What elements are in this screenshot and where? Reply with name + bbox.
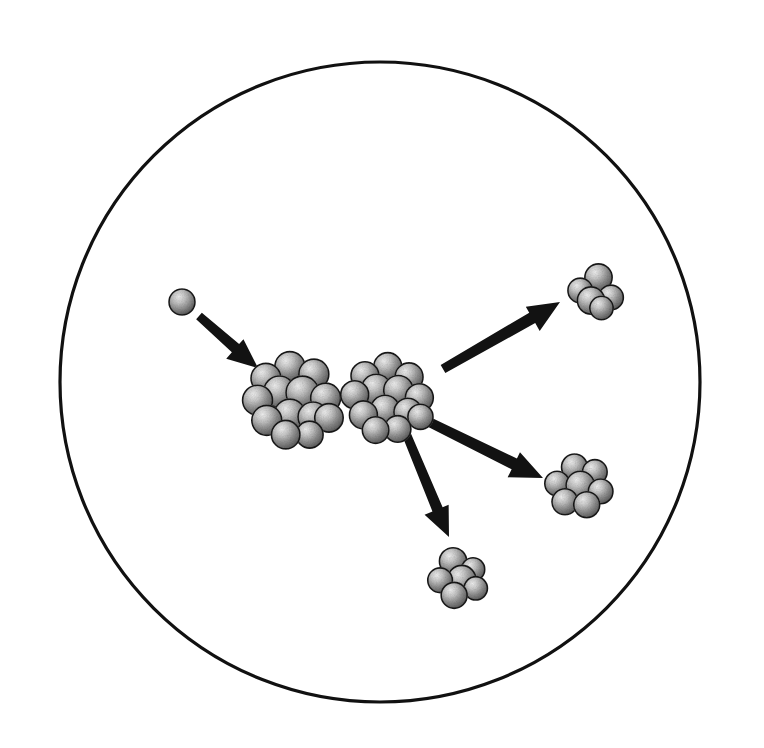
fragment-bottom: [428, 548, 488, 609]
nucleon-sphere: [169, 289, 195, 315]
arrow-fragment-upper-right: [441, 302, 560, 373]
nucleon-sphere: [574, 492, 600, 518]
compound-nucleus: [341, 353, 434, 444]
fission-diagram-figure: Nuclear fission of a heavy nucleus induc…: [0, 0, 764, 748]
target-nucleus: [243, 352, 344, 449]
fragment-lower-right: [545, 454, 613, 518]
arrow-fragment-lower-right: [419, 414, 543, 478]
nucleon-sphere: [408, 404, 433, 429]
nucleon-sphere: [271, 420, 300, 449]
fission-diagram-canvas: [0, 0, 764, 748]
nucleon-sphere: [441, 582, 467, 608]
fragment-upper-right: [568, 264, 623, 320]
arrow-incoming-neutron: [196, 313, 258, 368]
nucleon-sphere: [590, 296, 613, 319]
incident-neutron: [169, 289, 195, 315]
arrow-fragment-bottom: [399, 424, 449, 537]
nucleon-sphere: [362, 417, 389, 444]
particles-layer: [169, 264, 623, 609]
